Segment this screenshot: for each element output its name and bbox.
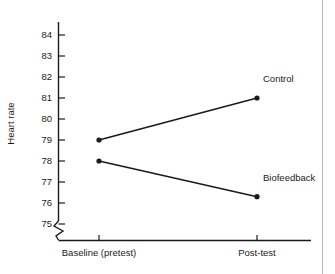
data-point (96, 137, 101, 142)
series-label-control: Control (263, 73, 294, 84)
x-tick-label-posttest: Post-test (217, 247, 297, 258)
data-point (96, 158, 101, 163)
series-control-line (99, 98, 257, 140)
y-tick-label-77: 77 (28, 176, 52, 187)
data-point (254, 95, 259, 100)
x-tick-label-baseline: Baseline (pretest) (39, 247, 159, 258)
y-tick-label-83: 83 (28, 50, 52, 61)
y-tick-label-81: 81 (28, 92, 52, 103)
chart-figure: Heart rate 84 83 82 81 80 79 78 77 76 75… (0, 0, 335, 274)
y-axis-title: Heart rate (5, 94, 16, 154)
data-point (254, 194, 259, 199)
x-tick-marks (99, 235, 257, 241)
y-tick-marks (59, 35, 66, 224)
series-biofeedback-line (99, 161, 257, 197)
y-tick-label-84: 84 (28, 29, 52, 40)
y-tick-label-76: 76 (28, 197, 52, 208)
series-label-biofeedback: Biofeedback (263, 172, 315, 183)
y-tick-label-75: 75 (28, 218, 52, 229)
y-tick-label-79: 79 (28, 134, 52, 145)
y-tick-label-78: 78 (28, 155, 52, 166)
y-tick-label-80: 80 (28, 113, 52, 124)
series-biofeedback (96, 158, 259, 199)
series-control (96, 95, 259, 142)
y-tick-label-82: 82 (28, 71, 52, 82)
